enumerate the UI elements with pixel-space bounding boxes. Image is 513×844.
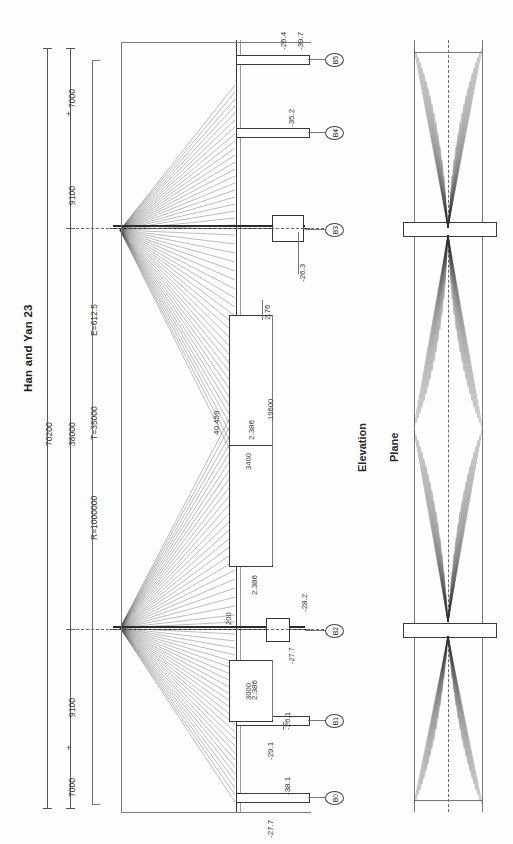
level-midspan-40459: 40.459 <box>212 411 221 435</box>
chain-tick-0 <box>66 48 75 49</box>
level-b0-291: -29.1 <box>266 742 275 760</box>
dim-200: 200 <box>224 612 233 625</box>
chain-tick-5 <box>66 808 75 809</box>
chain-plus-4: + <box>66 744 71 752</box>
level-b2-2386: 2.386 <box>250 575 259 595</box>
pier-bubble-b0[interactable]: B0 <box>325 791 344 805</box>
bubble-leader-b1 <box>308 720 326 721</box>
dim-seg-5: 7000 <box>67 778 77 797</box>
dim-seg-2: 9100 <box>67 186 77 205</box>
curve-line-cap-top <box>92 60 100 61</box>
pylon-b2-head <box>266 618 290 642</box>
pier-box-b4 <box>236 128 310 138</box>
pier-bubble-b1[interactable]: B1 <box>325 714 344 728</box>
overall-dim-tick-top <box>43 48 52 49</box>
dim-seg-3: 38000 <box>67 422 77 446</box>
view-label-elevation: Elevation <box>356 423 368 472</box>
overall-dim-tick-bottom <box>43 808 52 809</box>
level-midspan-276: 2.76 <box>263 304 272 320</box>
bubble-leader-b2 <box>305 630 326 631</box>
pier-label-b0: B0 <box>329 790 341 807</box>
pier-bubble-b3[interactable]: B3 <box>325 223 344 237</box>
plan-cable-fan-b2-upper <box>408 430 488 630</box>
bubble-leader-b5 <box>308 59 326 60</box>
plan-cable-fan-b3-lower <box>408 235 488 435</box>
dim-3400: 3400 <box>244 453 253 470</box>
dim-radius: R=1000000 <box>89 496 99 540</box>
pier-bubble-b5[interactable]: B5 <box>325 53 344 67</box>
girder-bottom-edge <box>121 812 311 813</box>
bubble-leader-b0 <box>308 797 326 798</box>
lowspan-dim-line <box>272 660 273 720</box>
level-b4: -35.2 <box>287 109 296 127</box>
dim-tangent: T=35000 <box>89 406 99 440</box>
plan-cable-fan-b3-upper <box>408 40 488 230</box>
dim-19600: 19600 <box>266 399 275 420</box>
dim-overall: 70200 <box>44 422 54 446</box>
pylon-b2-ref-line <box>66 629 324 630</box>
leader-b3 <box>298 232 299 274</box>
level-b0-381: -38.1 <box>283 777 292 795</box>
level-b5-a: -26.4 <box>279 32 288 50</box>
level-b3: -26.3 <box>298 264 307 282</box>
pylon-b3-ref-line <box>66 228 324 229</box>
page-title: Han and Yan 23 <box>22 304 34 392</box>
midspan-dim-line <box>272 315 273 565</box>
girder-outer-edge <box>121 42 122 812</box>
pier-box-b0 <box>236 793 310 803</box>
leader-midspan <box>262 300 263 320</box>
view-label-plan: Plane <box>388 433 400 462</box>
level-b1-261: -26.1 <box>283 712 292 730</box>
bubble-leader-b4 <box>308 132 326 133</box>
drawing-sheet: Han and Yan 23 70200 + + 7000 9100 38000… <box>0 0 513 844</box>
pier-label-b1: B1 <box>329 713 341 730</box>
level-b1-2386: 2.386 <box>250 680 259 700</box>
chain-plus-1: + <box>66 110 71 118</box>
level-b2-277: -27.7 <box>287 648 296 664</box>
dim-external: E=612.5 <box>89 304 99 336</box>
pier-label-b4: B4 <box>329 125 341 142</box>
level-midspan-2386: 2.386 <box>247 420 256 440</box>
pier-bubble-b4[interactable]: B4 <box>325 126 344 140</box>
curve-line-cap-bottom <box>92 804 100 805</box>
pier-label-b2: B2 <box>329 623 341 640</box>
level-b5-b: -39.7 <box>296 32 305 50</box>
pier-label-b3: B3 <box>329 222 341 239</box>
leader-b1 <box>283 722 284 730</box>
dim-seg-4: 9100 <box>67 698 77 717</box>
plan-cable-fan-b2-lower <box>408 636 488 811</box>
level-b0-277: -27.7 <box>266 820 275 838</box>
bubble-leader-b3 <box>305 229 326 230</box>
pier-label-b5: B5 <box>329 52 341 69</box>
pier-box-b5 <box>236 55 310 65</box>
level-b2-282: -28.2 <box>300 594 309 612</box>
dim-seg-1: 7000 <box>67 89 77 108</box>
pier-bubble-b2[interactable]: B2 <box>325 624 344 638</box>
